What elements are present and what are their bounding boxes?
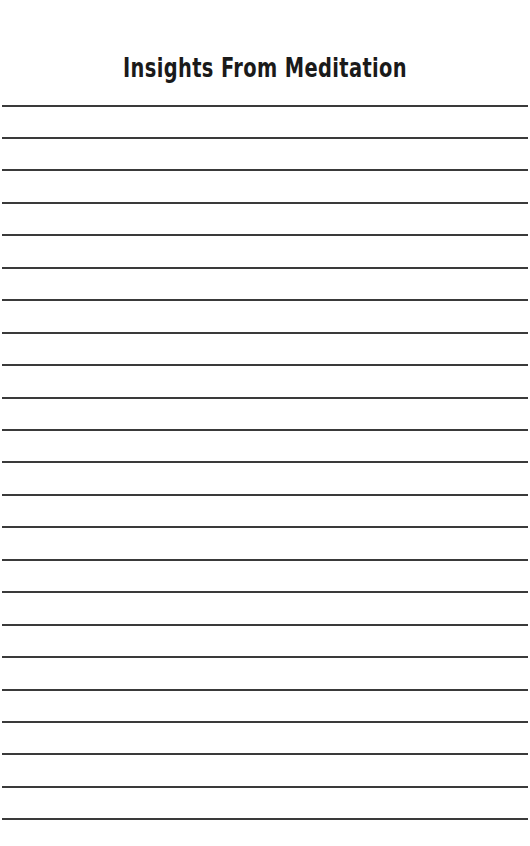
writing-line (2, 818, 528, 820)
writing-line (2, 234, 528, 236)
writing-line (2, 397, 528, 399)
writing-line (2, 494, 528, 496)
writing-line (2, 332, 528, 334)
writing-line (2, 299, 528, 301)
writing-line (2, 559, 528, 561)
writing-line (2, 137, 528, 139)
writing-line (2, 364, 528, 366)
writing-line (2, 202, 528, 204)
writing-line (2, 429, 528, 431)
writing-line (2, 461, 528, 463)
writing-line (2, 624, 528, 626)
writing-line (2, 105, 528, 107)
ruled-lines (0, 0, 530, 846)
writing-line (2, 689, 528, 691)
writing-line (2, 753, 528, 755)
writing-line (2, 721, 528, 723)
writing-line (2, 786, 528, 788)
writing-line (2, 591, 528, 593)
writing-line (2, 656, 528, 658)
writing-line (2, 267, 528, 269)
writing-line (2, 169, 528, 171)
writing-line (2, 526, 528, 528)
